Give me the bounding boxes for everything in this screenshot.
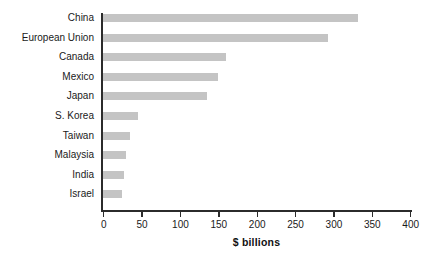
x-axis-tick-label: 0 [101,219,107,230]
category-label: Japan [0,91,98,101]
category-label: Taiwan [0,131,98,141]
category-label: Israel [0,189,98,199]
category-label: India [0,170,98,180]
category-label: China [0,13,98,23]
x-axis-tick-label: 100 [172,219,189,230]
bar [103,190,122,198]
x-axis-tick [218,212,219,217]
bar [103,73,218,81]
bar [103,112,138,120]
x-axis-tick [295,212,296,217]
category-label: European Union [0,33,98,43]
x-axis-tick [103,212,104,217]
x-axis-tick [141,212,142,217]
x-axis-tick [410,212,411,217]
bar [103,132,130,140]
category-axis-labels: ChinaEuropean UnionCanadaMexicoJapanS. K… [0,0,98,210]
category-label: Malaysia [0,150,98,160]
x-axis-tick [333,212,334,217]
x-axis-tick-label: 350 [364,219,381,230]
plot-area [103,14,410,210]
x-axis-title: $ billions [101,236,412,248]
x-axis-tick-label: 50 [137,219,148,230]
x-axis-tick [257,212,258,217]
bar [103,92,207,100]
bar [103,34,328,42]
bar-chart: ChinaEuropean UnionCanadaMexicoJapanS. K… [0,0,433,261]
bar [103,171,124,179]
bar [103,151,126,159]
category-label: Mexico [0,72,98,82]
category-label: S. Korea [0,111,98,121]
category-label: Canada [0,52,98,62]
x-axis-tick-label: 300 [326,219,343,230]
bar [103,14,358,22]
x-axis-tick [372,212,373,217]
x-axis-tick-label: 150 [210,219,227,230]
x-axis-tick-label: 200 [249,219,266,230]
bar [103,53,226,61]
x-axis-tick-label: 400 [402,219,419,230]
x-axis-tick [180,212,181,217]
x-axis-tick-label: 250 [287,219,304,230]
